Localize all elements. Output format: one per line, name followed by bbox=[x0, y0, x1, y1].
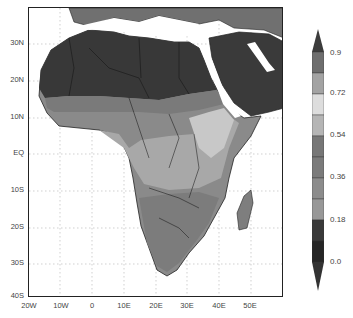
colorbar-label: 0.72 bbox=[330, 88, 346, 97]
x-tick-label: 10E bbox=[112, 301, 136, 310]
x-tick-label: 20E bbox=[144, 301, 168, 310]
x-tick-label: 0 bbox=[80, 301, 104, 310]
madagascar bbox=[237, 190, 253, 230]
y-tick-label: 30N bbox=[2, 38, 24, 47]
y-tick-label: 20S bbox=[2, 222, 24, 231]
x-tick-label: 20W bbox=[17, 301, 41, 310]
y-tick-label: 30S bbox=[2, 258, 24, 267]
colorbar bbox=[312, 29, 324, 291]
map-plot-area bbox=[28, 7, 283, 297]
southern-africa-region bbox=[139, 192, 219, 272]
colorbar-label: 0.54 bbox=[330, 130, 346, 139]
x-tick-label: 40E bbox=[207, 301, 231, 310]
y-tick-label: EQ bbox=[2, 148, 24, 157]
y-tick-label: 10N bbox=[2, 112, 24, 121]
colorbar-label: 0.9 bbox=[330, 48, 341, 57]
colorbar-label: 0.18 bbox=[330, 215, 346, 224]
sahara-region bbox=[39, 30, 217, 100]
africa-map bbox=[29, 8, 283, 297]
colorbar-label: 0.0 bbox=[330, 257, 341, 266]
y-tick-label: 20N bbox=[2, 75, 24, 84]
colorbar-min-extend bbox=[312, 262, 324, 291]
colorbar-label: 0.36 bbox=[330, 172, 346, 181]
x-tick-label: 10W bbox=[49, 301, 73, 310]
x-tick-label: 50E bbox=[238, 301, 262, 310]
y-tick-label: 40S bbox=[2, 291, 24, 300]
colorbar-max-extend bbox=[312, 29, 324, 52]
x-tick-label: 30E bbox=[175, 301, 199, 310]
y-tick-label: 10S bbox=[2, 185, 24, 194]
